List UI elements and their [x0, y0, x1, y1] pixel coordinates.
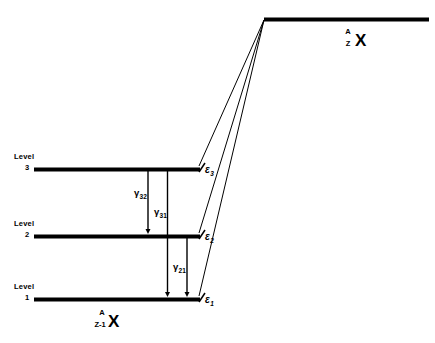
- diagram-canvas: Level 3 Level 2 Level 1 ε3 ε2 ε1 γ32 γ31…: [0, 0, 435, 343]
- feed-line-to-level-2: [199, 20, 264, 233]
- level-3-label-number: 3: [25, 163, 29, 172]
- parent-element-symbol: X: [355, 31, 367, 50]
- energy-sub-3: 3: [210, 170, 214, 177]
- energy-label-3: ε3: [205, 164, 214, 177]
- energy-label-2: ε2: [205, 231, 214, 244]
- level-1-label-number: 1: [25, 293, 29, 302]
- gamma-label-32: γ32: [134, 187, 147, 200]
- level-2-label-number: 2: [25, 230, 29, 239]
- gamma-sub-32: 32: [140, 193, 148, 200]
- energy-level-diagram: Level 3 Level 2 Level 1 ε3 ε2 ε1 γ32 γ31…: [0, 0, 435, 343]
- feed-line-to-level-1: [199, 20, 264, 296]
- parent-mass-number: A: [345, 27, 351, 36]
- energy-sub-2: 2: [209, 237, 214, 244]
- energy-sub-1: 1: [210, 300, 214, 307]
- gamma-sub-31: 31: [160, 212, 168, 219]
- gamma-label-21: γ21: [173, 261, 186, 274]
- parent-atomic-number: Z: [346, 39, 351, 48]
- daughter-element-symbol: X: [108, 312, 120, 331]
- feed-line-to-level-3: [199, 20, 264, 166]
- level-3-label-word: Level: [14, 152, 34, 161]
- level-1-label-word: Level: [14, 282, 34, 291]
- energy-label-1: ε1: [205, 294, 214, 307]
- gamma-label-31: γ31: [154, 206, 167, 219]
- gamma-sub-21: 21: [179, 267, 187, 274]
- daughter-mass-number: A: [99, 308, 105, 317]
- daughter-atomic-number: Z-1: [94, 320, 105, 329]
- level-2-label-word: Level: [14, 219, 34, 228]
